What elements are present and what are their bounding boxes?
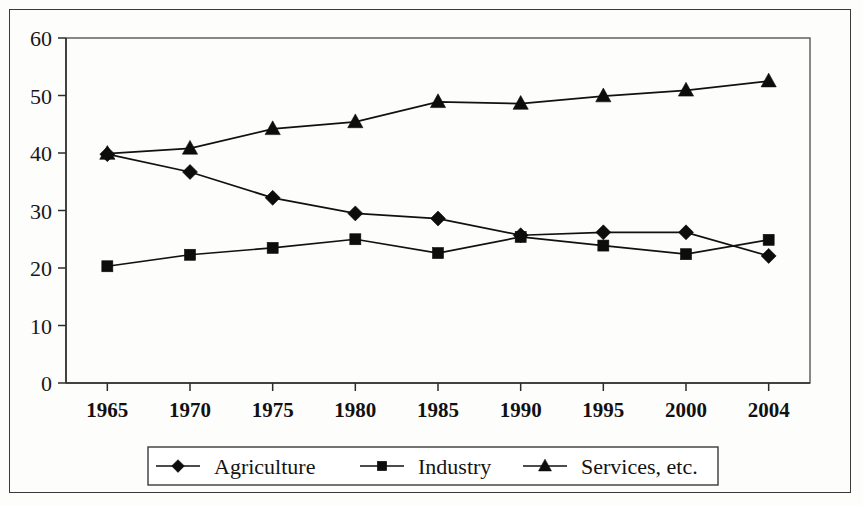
figure-container: 0102030405060 19651970197519801985199019… [0, 0, 863, 505]
data-point [681, 249, 692, 260]
legend-label: Agriculture [214, 454, 315, 479]
y-tick-label: 0 [41, 371, 52, 396]
series-services-etc [100, 73, 777, 159]
data-point [596, 225, 611, 240]
data-point [431, 211, 446, 226]
series-agriculture [100, 147, 776, 264]
data-point [350, 234, 361, 245]
x-axis-tick-marks [107, 383, 768, 391]
data-point [185, 249, 196, 260]
legend-marker-square-icon [377, 461, 386, 470]
x-tick-label: 1965 [86, 398, 128, 422]
legend-label: Services, etc. [581, 454, 698, 479]
line-chart: 0102030405060 19651970197519801985199019… [0, 0, 863, 505]
y-tick-label: 20 [30, 256, 52, 281]
data-point [679, 225, 694, 240]
data-point [348, 206, 363, 221]
x-tick-label: 1995 [582, 398, 624, 422]
data-point [183, 164, 198, 179]
data-point [598, 240, 609, 251]
y-axis-tick-labels: 0102030405060 [30, 26, 52, 396]
x-axis-tick-labels: 196519701975198019851990199520002004 [86, 398, 790, 422]
x-tick-label: 2004 [748, 398, 791, 422]
data-point [761, 73, 776, 87]
x-tick-label: 1980 [334, 398, 376, 422]
data-point [102, 261, 113, 272]
x-tick-label: 1985 [417, 398, 459, 422]
data-series-layer [100, 73, 777, 272]
data-point [267, 242, 278, 253]
y-axis-tick-marks [58, 38, 66, 383]
legend-label: Industry [418, 454, 491, 479]
data-point [433, 248, 444, 259]
x-tick-label: 1990 [500, 398, 542, 422]
y-tick-label: 60 [30, 26, 52, 51]
data-point [430, 94, 445, 108]
y-tick-label: 50 [30, 84, 52, 109]
data-point [265, 190, 280, 205]
x-tick-label: 2000 [665, 398, 707, 422]
x-tick-label: 1975 [252, 398, 294, 422]
y-tick-label: 30 [30, 199, 52, 224]
series-industry [102, 231, 774, 271]
x-tick-label: 1970 [169, 398, 211, 422]
data-point [763, 234, 774, 245]
data-point [761, 248, 776, 263]
chart-legend: AgricultureIndustryServices, etc. [148, 447, 718, 485]
y-tick-label: 40 [30, 141, 52, 166]
data-point [515, 231, 526, 242]
y-tick-label: 10 [30, 314, 52, 339]
